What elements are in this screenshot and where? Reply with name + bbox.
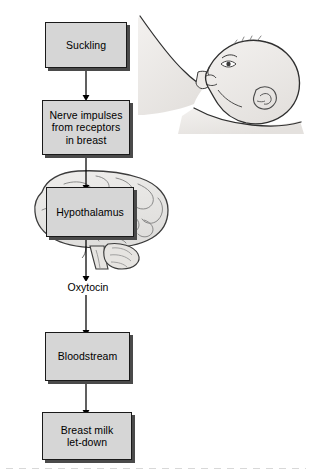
infant-suckling-at-breast-illustration [138, 12, 316, 134]
page-bottom-rule [6, 468, 306, 469]
flow-box-breast-milk-let-down-label: Breast milk let-down [61, 424, 113, 449]
flow-box-bloodstream: Bloodstream [45, 332, 130, 381]
flow-box-nerve-impulses: Nerve impulses from receptors in breast [42, 100, 130, 155]
flow-box-hypothalamus-label: Hypothalamus [56, 206, 124, 218]
flow-box-suckling-label: Suckling [66, 39, 106, 51]
flow-box-breast-milk-let-down: Breast milk let-down [42, 412, 132, 460]
oxytocin-label: Oxytocin [56, 281, 120, 293]
flowchart-diagram: Suckling Nerve impulses from receptors i… [0, 0, 316, 474]
flow-arrows [0, 0, 316, 474]
flow-box-bloodstream-label: Bloodstream [58, 350, 118, 362]
flow-box-hypothalamus: Hypothalamus [46, 187, 134, 237]
flow-box-nerve-impulses-label: Nerve impulses from receptors in breast [49, 109, 122, 146]
flow-box-suckling: Suckling [45, 22, 127, 68]
oxytocin-label-text: Oxytocin [68, 281, 109, 293]
